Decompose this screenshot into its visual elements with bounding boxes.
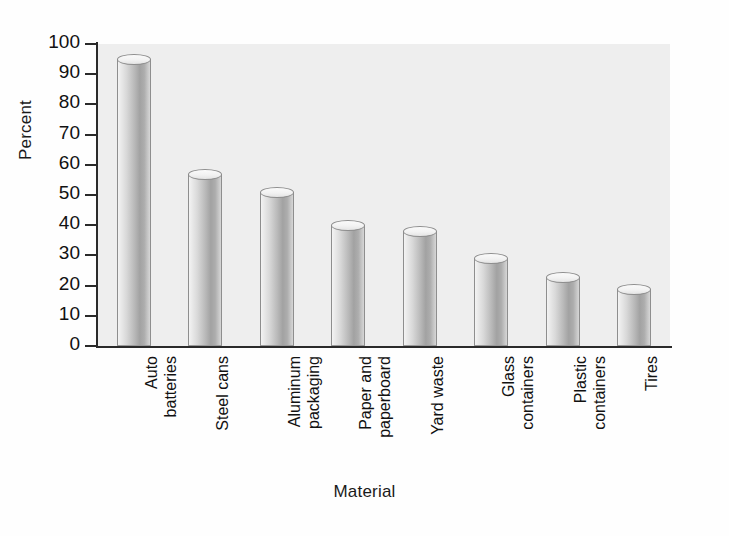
- y-tick-label: 10: [59, 303, 80, 325]
- y-tick-label: 50: [59, 182, 80, 204]
- y-tick-mark: [85, 285, 98, 287]
- y-tick-label: 90: [59, 61, 80, 83]
- y-tick-label: 0: [69, 333, 80, 355]
- y-tick-mark: [85, 164, 98, 166]
- bar-body: [331, 225, 365, 346]
- bar-top-ellipse: [188, 169, 222, 180]
- bar-top-ellipse: [546, 272, 580, 283]
- y-tick-label: 80: [59, 91, 80, 113]
- y-tick-label: 40: [59, 212, 80, 234]
- y-tick-label: 100: [48, 31, 80, 53]
- x-axis-title: Material: [0, 482, 729, 502]
- y-tick-label: 60: [59, 152, 80, 174]
- bar: [117, 54, 151, 346]
- y-tick-mark: [85, 345, 98, 347]
- y-tick-mark: [85, 103, 98, 105]
- bar-top-ellipse: [260, 187, 294, 198]
- bar: [260, 187, 294, 346]
- bar-body: [546, 277, 580, 346]
- bar: [403, 226, 437, 346]
- bar: [474, 253, 508, 346]
- bar: [331, 220, 365, 346]
- y-axis-title: Percent: [16, 50, 36, 210]
- bar-body: [117, 59, 151, 346]
- bar-body: [260, 192, 294, 346]
- bar-body: [188, 174, 222, 346]
- bar: [188, 169, 222, 346]
- y-tick-label: 70: [59, 122, 80, 144]
- y-tick-mark: [85, 43, 98, 45]
- chart-page: Percent 1009080706050403020100 Autobatte…: [0, 0, 729, 536]
- y-tick-label: 20: [59, 273, 80, 295]
- bar: [546, 272, 580, 346]
- y-tick-mark: [85, 254, 98, 256]
- plot-area: [98, 44, 670, 346]
- y-tick-mark: [85, 194, 98, 196]
- x-axis-line: [96, 346, 672, 348]
- bar-body: [403, 231, 437, 346]
- bar: [617, 284, 651, 346]
- bar-body: [474, 258, 508, 346]
- bar-body: [617, 289, 651, 346]
- y-tick-label: 30: [59, 242, 80, 264]
- y-tick-mark: [85, 134, 98, 136]
- y-tick-mark: [85, 224, 98, 226]
- y-tick-mark: [85, 315, 98, 317]
- bar-top-ellipse: [617, 284, 651, 295]
- y-tick-mark: [85, 73, 98, 75]
